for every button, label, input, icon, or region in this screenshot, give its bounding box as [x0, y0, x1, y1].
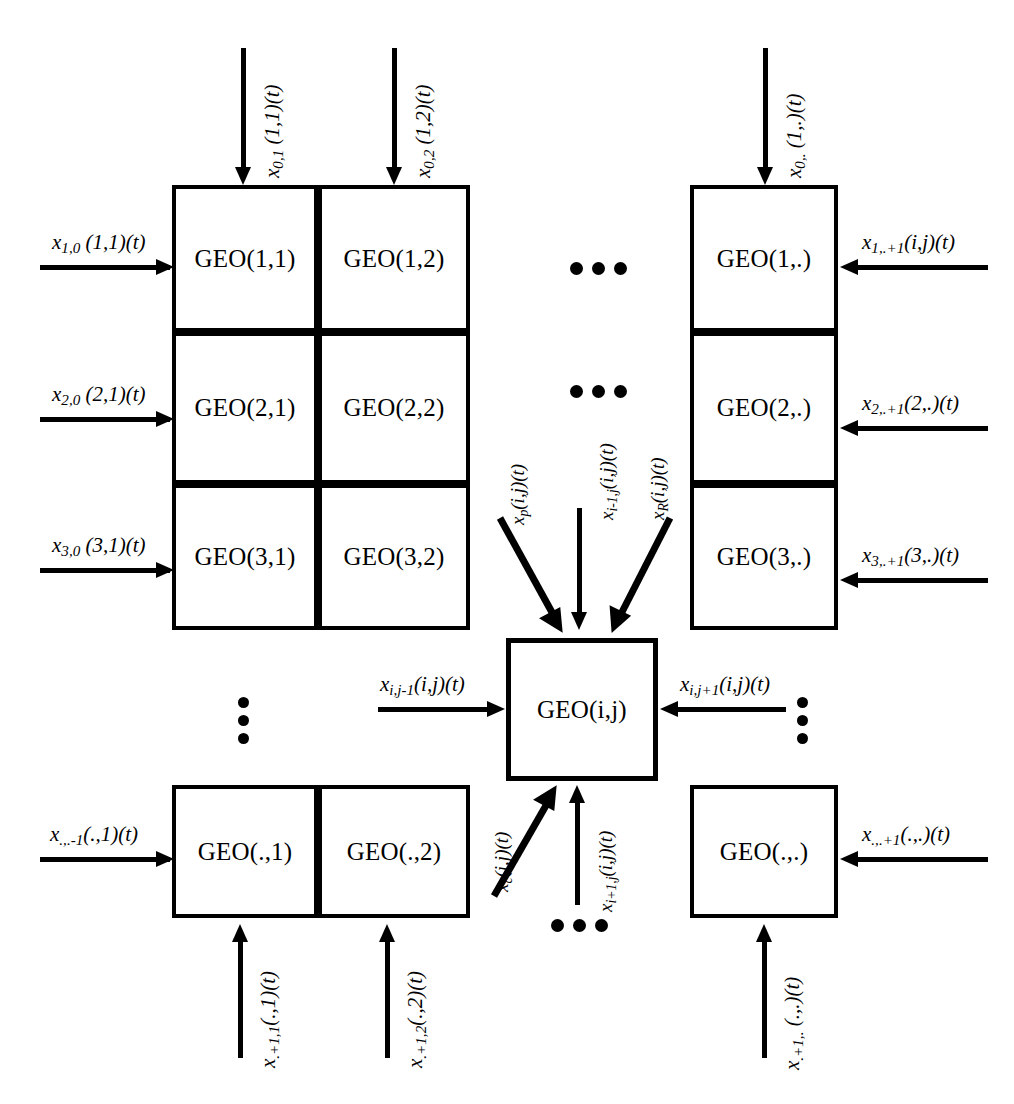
geo-node-1-1[interactable]: GEO(1,1) — [172, 185, 318, 332]
arrow-center-bottom-vertical-line — [575, 800, 580, 905]
label-base: x — [647, 512, 668, 520]
label-sub: 1,0 — [61, 240, 80, 256]
arrow-left-in-2-1-head — [156, 411, 174, 427]
arrow-top-in-1-2-line — [392, 48, 397, 170]
label-rest: (.,1)(t) — [256, 971, 280, 1026]
label-center-bottom-vertical: xi+1,j(i,j)(t) — [596, 831, 619, 912]
label-top-in-1-dot: x0,. (1,.)(t) — [784, 94, 808, 179]
ellipsis-bottom-horizontal — [551, 919, 608, 932]
ellipsis-left-vertical — [238, 697, 249, 744]
arrow-left-in-2-1-line — [40, 417, 170, 422]
label-sub: 0,2 — [421, 150, 437, 169]
arrow-left-in-1-1-line — [40, 265, 170, 270]
geo-node-dot-2[interactable]: GEO(.,2) — [318, 785, 470, 918]
label-sub: .,.-1 — [59, 832, 83, 848]
arrow-right-in-2-dot-line — [856, 426, 988, 431]
arrow-right-in-dot-dot-line — [856, 857, 988, 862]
arrow-left-in-dot-1-line — [40, 857, 170, 862]
label-sub: i,j-1 — [389, 682, 414, 698]
dot — [614, 385, 627, 398]
arrow-center-right-in-head — [660, 701, 678, 717]
label-rest: (i,j)(t) — [491, 832, 512, 878]
dot — [551, 919, 564, 932]
label-sub: i+1,j — [604, 876, 619, 903]
label-rest: (i,j)(t) — [904, 230, 955, 254]
label-base: x — [52, 533, 61, 557]
label-base: x — [50, 822, 59, 846]
geo-node-2-1[interactable]: GEO(2,1) — [172, 332, 318, 484]
label-rest: (i,j)(t) — [595, 831, 616, 877]
label-rest: (1,1)(t) — [260, 84, 284, 149]
label-rest: (3,1)(t) — [80, 533, 145, 557]
arrow-bottom-out-dot-1-head — [232, 924, 248, 942]
arrow-top-in-1-dot-head — [757, 167, 773, 185]
dot — [797, 733, 808, 744]
geo-node-dot-1[interactable]: GEO(.,1) — [172, 785, 318, 918]
label-rest: (1,1)(t) — [80, 230, 145, 254]
ellipsis-row2-horizontal — [570, 385, 627, 398]
arrow-top-in-1-2-head — [386, 167, 402, 185]
dot — [238, 715, 249, 726]
geo-node-label: GEO(.,2) — [347, 838, 442, 866]
label-sub: 3,0 — [61, 543, 80, 559]
label-center-bottom-left-diagonal: xc(i,j)(t) — [492, 832, 515, 892]
label-rest: (i,j)(t) — [647, 457, 668, 503]
label-left-in-1-1: x1,0 (1,1)(t) — [52, 232, 146, 256]
label-center-top-left-diagonal: xp(i,j)(t) — [508, 464, 531, 525]
dot — [238, 733, 249, 744]
geo-node-2-2[interactable]: GEO(2,2) — [318, 332, 470, 484]
label-sub: i-1,j — [605, 489, 620, 511]
geo-node-3-2[interactable]: GEO(3,2) — [318, 484, 470, 630]
dot — [238, 697, 249, 708]
dot — [592, 262, 605, 275]
arrow-center-right-in-line — [676, 707, 786, 712]
label-sub: i,j+1 — [689, 682, 719, 698]
geo-node-label: GEO(2,1) — [195, 394, 296, 422]
geo-node-3-1[interactable]: GEO(3,1) — [172, 484, 318, 630]
dot — [570, 262, 583, 275]
label-right-in-1-dot: x1,.+1(i,j)(t) — [862, 232, 955, 256]
label-base: x — [780, 1061, 804, 1070]
geo-node-2-dot[interactable]: GEO(2,.) — [690, 332, 838, 484]
dot — [797, 715, 808, 726]
arrow-left-in-3-1-head — [156, 562, 174, 578]
label-left-in-dot-1: x.,.-1(.,1)(t) — [50, 824, 138, 848]
geo-node-label: GEO(1,1) — [195, 245, 296, 273]
arrow-bottom-out-dot-dot-head — [756, 924, 772, 942]
dot — [570, 385, 583, 398]
geo-node-1-dot[interactable]: GEO(1,.) — [690, 185, 838, 332]
geo-node-label: GEO(.,.) — [720, 838, 808, 866]
geo-node-label: GEO(3,.) — [717, 543, 812, 571]
label-base: x — [595, 904, 616, 912]
label-rest: (1,.)(t) — [782, 94, 806, 154]
label-rest: (i,j)(t) — [596, 443, 617, 489]
arrow-bottom-out-dot-dot-line — [762, 940, 767, 1058]
label-rest: (.,.)(t) — [780, 977, 804, 1032]
geo-node-dot-dot[interactable]: GEO(.,.) — [690, 785, 838, 918]
label-bottom-out-dot-dot: x.+1,. (.,.)(t) — [782, 977, 806, 1070]
arrow-center-left-in-head — [487, 701, 505, 717]
arrow-left-in-dot-1-head — [156, 851, 174, 867]
label-sub: .+1,1 — [266, 1026, 282, 1059]
arrow-top-in-1-1-line — [241, 48, 246, 170]
geo-node-label: GEO(.,1) — [198, 838, 293, 866]
diagram-canvas: GEO(1,1) GEO(1,2) GEO(2,1) GEO(2,2) GEO(… — [0, 0, 1014, 1104]
arrow-bottom-out-dot-2-line — [385, 940, 390, 1058]
label-base: x — [411, 169, 435, 178]
geo-node-label: GEO(1,.) — [717, 245, 812, 273]
label-base: x — [507, 517, 528, 525]
label-left-in-2-1: x2,0 (2,1)(t) — [52, 384, 146, 408]
arrow-bottom-out-dot-2-head — [379, 924, 395, 942]
label-sub: 3,.+1 — [871, 553, 904, 569]
label-rest: (2,1)(t) — [80, 382, 145, 406]
label-sub: R — [656, 503, 671, 511]
label-top-in-1-2: x0,2 (1,2)(t) — [413, 84, 437, 178]
geo-node-1-2[interactable]: GEO(1,2) — [318, 185, 470, 332]
label-right-in-dot-dot: x.,.+1(.,.)(t) — [862, 824, 950, 848]
label-sub: p — [516, 510, 531, 517]
geo-node-center-i-j[interactable]: GEO(i,j) — [506, 638, 658, 781]
label-sub: 0,. — [792, 154, 808, 169]
arrow-center-top-left-diagonal — [492, 512, 612, 652]
dot — [595, 919, 608, 932]
label-sub: 2,0 — [61, 392, 80, 408]
